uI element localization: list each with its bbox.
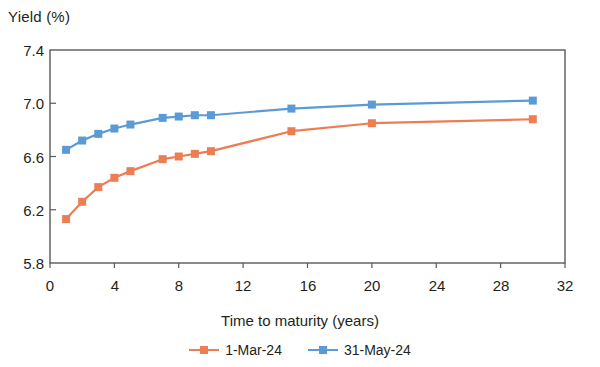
chart-legend: 1-Mar-24 31-May-24	[0, 342, 600, 358]
legend-item-series-1[interactable]: 1-Mar-24	[189, 342, 282, 358]
data-point-marker-2	[62, 146, 70, 154]
plot-frame	[50, 50, 565, 263]
legend-swatch-series-1	[189, 344, 219, 356]
data-point-marker-1	[62, 215, 70, 223]
data-point-marker-1	[110, 174, 118, 182]
data-point-marker-1	[287, 127, 295, 135]
data-point-marker-1	[207, 147, 215, 155]
series-line-1	[66, 119, 533, 219]
data-point-marker-2	[191, 111, 199, 119]
data-point-marker-2	[159, 114, 167, 122]
data-point-marker-2	[94, 130, 102, 138]
legend-label-series-2: 31-May-24	[344, 342, 411, 358]
data-point-marker-2	[529, 97, 537, 105]
data-point-marker-2	[175, 113, 183, 121]
data-point-marker-1	[191, 150, 199, 158]
legend-label-series-1: 1-Mar-24	[225, 342, 282, 358]
data-point-marker-1	[126, 167, 134, 175]
data-point-marker-2	[110, 125, 118, 133]
legend-item-series-2[interactable]: 31-May-24	[308, 342, 411, 358]
data-point-marker-1	[368, 119, 376, 127]
data-point-marker-2	[368, 101, 376, 109]
yield-curve-chart: Yield (%) 7.4 7.0 6.6 6.2 5.8 0 4 8 12 1…	[0, 0, 600, 367]
data-point-marker-2	[78, 137, 86, 145]
data-point-marker-2	[287, 105, 295, 113]
data-point-marker-1	[78, 198, 86, 206]
series-line-2	[66, 101, 533, 150]
data-point-marker-2	[126, 121, 134, 129]
data-point-marker-1	[529, 115, 537, 123]
x-axis-title: Time to maturity (years)	[0, 312, 600, 329]
data-point-marker-1	[175, 153, 183, 161]
legend-swatch-series-2	[308, 344, 338, 356]
data-point-marker-1	[94, 183, 102, 191]
data-point-marker-2	[207, 111, 215, 119]
data-point-marker-1	[159, 155, 167, 163]
